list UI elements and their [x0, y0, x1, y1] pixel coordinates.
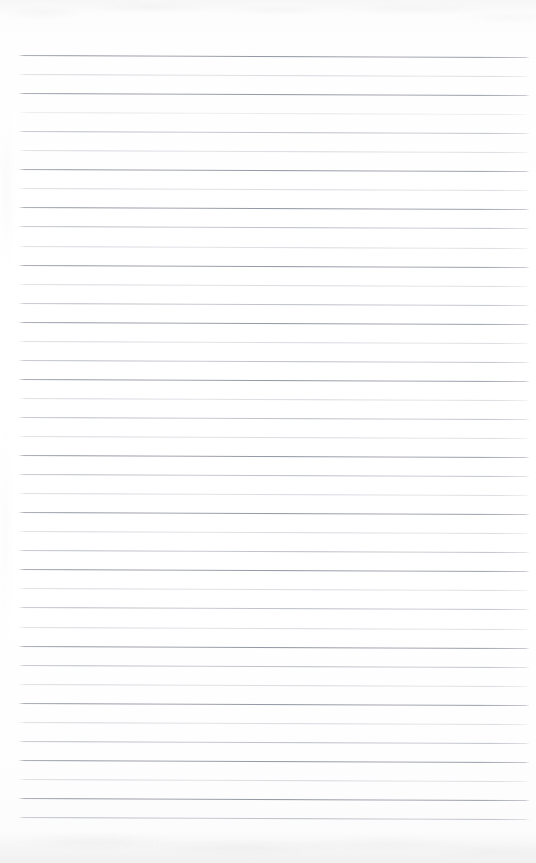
ruled-line — [18, 398, 530, 401]
ruled-line — [18, 322, 530, 325]
ruled-line — [18, 436, 530, 439]
ruled-line — [18, 360, 530, 363]
ruled-line — [18, 779, 530, 782]
ruled-line — [18, 417, 530, 420]
ruled-line — [18, 226, 530, 229]
ruled-line — [18, 722, 530, 725]
ruled-line — [18, 684, 530, 687]
ruled-line — [18, 512, 530, 515]
ruled-line — [18, 379, 530, 382]
ruled-line — [18, 493, 530, 496]
ruled-line — [18, 817, 530, 820]
ruled-line — [18, 627, 530, 630]
ruled-line — [18, 131, 530, 134]
ruled-line — [18, 455, 530, 458]
ruled-line — [18, 303, 530, 306]
ruled-line — [18, 474, 530, 477]
ruled-line — [18, 665, 530, 668]
ruled-line — [18, 55, 530, 58]
ruled-line — [18, 169, 530, 172]
ruled-line — [18, 550, 530, 553]
ruled-line — [18, 588, 530, 591]
ruled-line — [18, 341, 530, 344]
ruled-line — [18, 265, 530, 268]
ruled-line — [18, 798, 530, 801]
ruled-line — [18, 246, 530, 249]
ruled-line — [18, 607, 530, 610]
ruled-line — [18, 188, 530, 191]
ruled-line — [18, 93, 530, 96]
ruled-line — [18, 284, 530, 287]
ruled-line — [18, 703, 530, 706]
ruled-line — [18, 112, 530, 115]
ruled-line — [18, 150, 530, 153]
scanned-page — [0, 0, 536, 863]
ruled-line — [18, 741, 530, 744]
ruled-line — [18, 531, 530, 534]
ruled-lines-layer — [0, 0, 536, 863]
ruled-line — [18, 760, 530, 763]
ruled-line — [18, 74, 530, 77]
ruled-line — [18, 646, 530, 649]
ruled-line — [18, 207, 530, 210]
ruled-line — [18, 569, 530, 572]
